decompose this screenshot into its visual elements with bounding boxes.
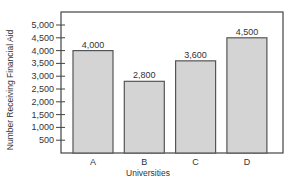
bar-chart: 5001,0001,5002,0002,5003,0003,5004,0004,… [0, 0, 296, 184]
y-axis-title: Number Receiving Financial Aid [5, 29, 15, 150]
y-tick-label: 5,000 [31, 20, 54, 30]
data-label-d: 4,500 [236, 27, 259, 37]
x-axis-title: Universities [126, 168, 170, 178]
bar-c [176, 61, 216, 153]
x-tick-label-a: A [90, 157, 96, 167]
bar-b [124, 81, 164, 153]
y-tick-label: 3,500 [31, 58, 54, 68]
y-tick-label: 1,500 [31, 110, 54, 120]
y-tick-label: 500 [39, 135, 54, 145]
y-tick-label: 2,500 [31, 84, 54, 94]
data-label-c: 3,600 [184, 50, 207, 60]
y-tick-label: 3,000 [31, 71, 54, 81]
data-label-a: 4,000 [82, 40, 105, 50]
data-label-b: 2,800 [133, 70, 156, 80]
y-tick-label: 2,000 [31, 97, 54, 107]
y-tick-label: 4,000 [31, 46, 54, 56]
x-tick-label-d: D [244, 157, 251, 167]
x-tick-label-c: C [192, 157, 199, 167]
y-tick-label: 4,500 [31, 33, 54, 43]
x-tick-label-b: B [141, 157, 147, 167]
bar-a [73, 51, 113, 153]
y-tick-label: 1,000 [31, 122, 54, 132]
bar-d [227, 38, 267, 153]
